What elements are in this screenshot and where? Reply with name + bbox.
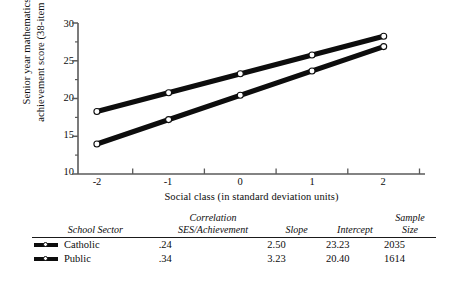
cell-correlation-catholic: .24	[159, 238, 268, 252]
cell-sector-catholic: Catholic	[32, 238, 159, 252]
header-correlation-line-1: Correlation	[159, 212, 268, 224]
cell-correlation-public: .34	[159, 252, 268, 266]
cell-slope-catholic: 2.50	[267, 238, 326, 252]
sector-label-catholic: Catholic	[64, 239, 100, 252]
statistics-table: School Sector Correlation SES/Achievemen…	[32, 212, 436, 265]
table-row: Catholic .24 2.50 23.23 2035	[32, 238, 436, 252]
table-header-row: School Sector Correlation SES/Achievemen…	[32, 212, 436, 238]
cell-sector-public: Public	[32, 252, 159, 266]
cell-sample-size-public: 1614	[384, 252, 436, 266]
cell-intercept-public: 20.40	[326, 252, 384, 266]
cell-slope-public: 3.23	[267, 252, 326, 266]
x-axis-title: Social class (in standard deviation unit…	[78, 191, 425, 202]
table-row: Public .34 3.23 20.40 1614	[32, 252, 436, 266]
header-slope: Slope	[267, 212, 326, 238]
y-major-ticks	[72, 23, 78, 174]
x-minor-ticks	[133, 169, 420, 175]
legend-key-catholic-icon	[34, 242, 58, 249]
cell-sample-size-catholic: 2035	[384, 238, 436, 252]
header-sample-size-line-2: Size	[384, 224, 436, 236]
header-sample-size-line-1: Sample	[384, 212, 436, 224]
sector-label-public: Public	[64, 253, 91, 266]
header-sample-size: Sample Size	[384, 212, 436, 238]
header-correlation-line-2: SES/Achievement	[159, 224, 268, 236]
header-school-sector: School Sector	[32, 212, 159, 238]
header-intercept: Intercept	[326, 212, 384, 238]
header-correlation: Correlation SES/Achievement	[159, 212, 268, 238]
legend-key-public-icon	[34, 255, 58, 262]
cell-intercept-catholic: 23.23	[326, 238, 384, 252]
